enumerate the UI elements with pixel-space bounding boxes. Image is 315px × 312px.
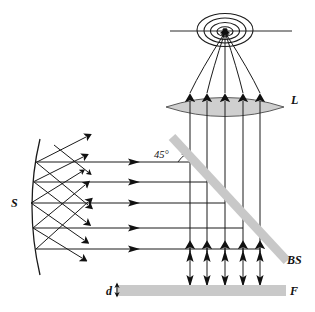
film-group bbox=[116, 285, 286, 296]
converging-ray-4 bbox=[226, 34, 243, 93]
object-scatter-rays bbox=[31, 137, 88, 258]
film-label: F bbox=[289, 284, 298, 298]
horizontal-ray-5 bbox=[36, 245, 260, 252]
double-arrow-3 bbox=[221, 248, 228, 288]
scatter-ray-up-4 bbox=[33, 185, 85, 228]
film-plate bbox=[116, 285, 286, 296]
beam-splitter-group bbox=[172, 137, 287, 261]
optics-diagram-figure: L bbox=[0, 0, 315, 312]
converging-ray-2 bbox=[207, 34, 224, 93]
beam-splitter-plate bbox=[172, 137, 287, 261]
illum-ray-down-4 bbox=[33, 228, 82, 258]
double-arrow-2 bbox=[203, 248, 210, 288]
horizontal-ray-1 bbox=[35, 158, 197, 165]
double-arrow-1 bbox=[186, 248, 193, 288]
source-label: S bbox=[11, 196, 18, 210]
converging-rays-group bbox=[190, 34, 260, 93]
double-arrow-5 bbox=[256, 248, 263, 288]
optics-diagram-canvas: L bbox=[0, 0, 315, 312]
illum-ray-down-1 bbox=[37, 163, 88, 205]
beam-splitter-label: BS bbox=[286, 253, 302, 267]
film-reflection-rays bbox=[186, 248, 263, 288]
double-arrow-4 bbox=[239, 248, 246, 288]
illum-ray-down-5 bbox=[54, 145, 88, 172]
horizontal-ray-4 bbox=[33, 224, 243, 231]
thickness-label: d bbox=[106, 284, 113, 298]
scatter-ray-up-5 bbox=[36, 202, 88, 249]
illum-ray-down-3 bbox=[31, 203, 84, 240]
angle-label: 45° bbox=[154, 149, 170, 160]
illum-ray-down-2 bbox=[34, 182, 86, 222]
lens-label: L bbox=[290, 93, 298, 107]
